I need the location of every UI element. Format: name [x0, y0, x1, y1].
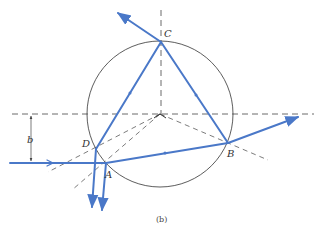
label-D: D: [81, 138, 90, 149]
direction-dot-CD: [129, 92, 132, 95]
normal-through-A: [72, 114, 160, 190]
label-A: A: [104, 169, 112, 180]
direction-dot-AB: [164, 152, 167, 155]
ray-C-to-D: [96, 42, 161, 149]
label-b: b: [27, 134, 33, 145]
figure-caption: (b): [156, 215, 167, 224]
emergent-ray-C: [118, 13, 161, 42]
direction-dot-BC: [195, 94, 198, 97]
emergent-ray-B: [228, 117, 298, 143]
label-C: C: [164, 28, 172, 39]
ray-diagram: C D A B b (b): [0, 0, 314, 235]
ray-A-to-B: [106, 143, 228, 163]
ray-B-to-C: [161, 42, 228, 143]
emergent-ray-D: [92, 149, 96, 207]
label-B: B: [226, 148, 234, 159]
